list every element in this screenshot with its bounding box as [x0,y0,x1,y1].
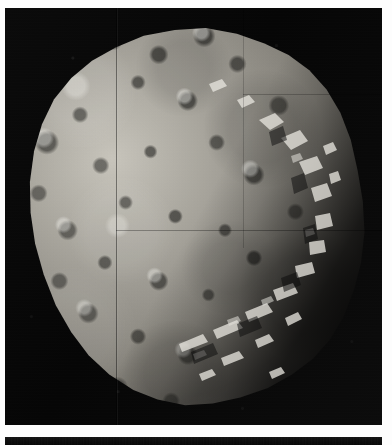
phobos-photograph: Heavily cratered irregular moon lit from… [5,8,382,425]
page-root: Heavily cratered irregular moon lit from… [0,0,392,445]
phobos-disc [23,28,368,413]
terminator-shadow [23,28,368,413]
photographic-grain [23,28,368,413]
surface-mottling [23,28,368,413]
lower-plate-grain [5,437,382,445]
moon-body-wrapper [5,8,382,425]
limb-highlight [23,28,368,413]
terminator-ridges [23,28,368,413]
crater-field [23,28,368,413]
crater-rim-highlights [23,28,368,413]
lower-plate-strip: Top edge of a second dark photographic p… [5,437,382,445]
